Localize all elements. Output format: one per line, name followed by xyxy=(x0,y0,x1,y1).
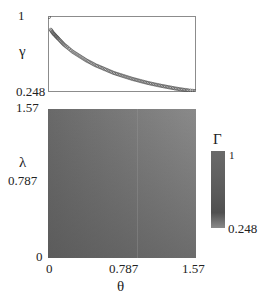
top-ytick-max: 1 xyxy=(18,9,25,22)
gamma-plot-canvas xyxy=(48,16,196,92)
gamma-heatmap xyxy=(48,109,196,258)
heatmap-canvas xyxy=(48,109,196,258)
top-ytick-min: 0.248 xyxy=(16,85,45,98)
colorbar xyxy=(211,151,225,228)
gamma-markers xyxy=(48,16,196,92)
xtick-0: 0 xyxy=(46,262,53,275)
gamma-line-plot xyxy=(48,16,196,92)
top-ylabel: γ xyxy=(19,44,26,59)
colorbar-min-label: 0.248 xyxy=(228,222,257,235)
bottom-ytick-max: 1.57 xyxy=(16,101,39,114)
xtick-max: 1.57 xyxy=(182,262,205,275)
bottom-ytick-mid: 0.787 xyxy=(8,174,37,187)
xtick-mid: 0.787 xyxy=(109,262,138,275)
colorbar-max-label: 1 xyxy=(229,149,235,162)
colorbar-label: Γ xyxy=(213,132,222,147)
bottom-ytick-min: 0 xyxy=(36,250,43,263)
bottom-ylabel: λ xyxy=(19,155,26,170)
plot-frame xyxy=(49,17,196,92)
bottom-xlabel: θ xyxy=(117,279,124,294)
